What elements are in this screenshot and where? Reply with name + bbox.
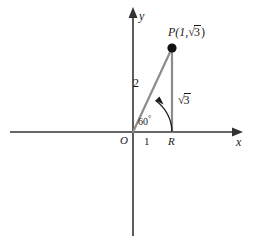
y-axis bbox=[129, 7, 138, 236]
point-p-marker bbox=[167, 43, 176, 52]
figure-canvas bbox=[0, 0, 262, 236]
x-axis-label: x bbox=[236, 136, 241, 148]
point-p-suffix: ) bbox=[201, 25, 205, 39]
angle-value: 60 bbox=[138, 116, 148, 127]
hypotenuse-length-label: 2 bbox=[133, 77, 139, 89]
y-axis-arrowhead bbox=[129, 7, 138, 18]
point-r-label: R bbox=[168, 136, 175, 147]
x-tick-one-label: 1 bbox=[144, 136, 150, 147]
point-p-radicand: 3 bbox=[194, 25, 201, 38]
opposite-length-label: √3 bbox=[178, 93, 191, 106]
y-axis-label: y bbox=[139, 10, 144, 22]
coordinate-geometry-figure: P(1,√3) 2 √3 60° O 1 R x y bbox=[0, 0, 262, 236]
angle-measure-label: 60° bbox=[138, 115, 151, 127]
opposite-radicand: 3 bbox=[184, 93, 191, 106]
point-p-label: P(1,√3) bbox=[168, 25, 205, 38]
origin-label: O bbox=[120, 135, 128, 146]
angle-arc-path bbox=[156, 101, 173, 133]
angle-arc bbox=[156, 97, 173, 133]
point-p-prefix: P(1, bbox=[168, 25, 188, 39]
degree-symbol: ° bbox=[148, 114, 151, 123]
